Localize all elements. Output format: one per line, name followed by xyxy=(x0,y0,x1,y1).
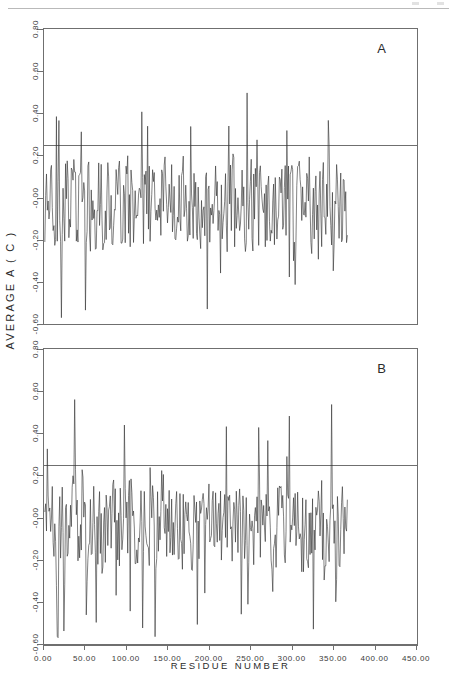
x-axis-tick xyxy=(333,645,334,650)
trace-polyline xyxy=(45,400,348,638)
x-axis-tick xyxy=(126,645,127,650)
y-axis-tick-label: 0.20 xyxy=(31,155,40,173)
x-axis-tick xyxy=(43,645,44,650)
y-axis-tick-label: -0.00 xyxy=(31,518,40,539)
y-axis-tick-label: 0.60 xyxy=(31,71,40,89)
plot-area-b xyxy=(44,349,417,644)
y-axis-tick-label: -0.20 xyxy=(31,560,40,581)
panel-label-a: A xyxy=(377,41,387,56)
panel-label-b: B xyxy=(377,361,387,376)
figure-page: AVERAGE A ( C ) A 0.800.600.400.20-0.00-… xyxy=(0,0,457,682)
x-axis-tick xyxy=(84,645,85,650)
x-axis-title: RESIDUE NUMBER xyxy=(43,660,418,671)
y-axis-tick-label: 0.40 xyxy=(31,113,40,131)
x-axis-tick xyxy=(209,645,210,650)
x-axis-tick xyxy=(250,645,251,650)
y-axis-tick-label: -0.40 xyxy=(31,282,40,303)
x-axis-tick xyxy=(416,645,417,650)
x-axis: 0.0050.00100.00150.00200.00250.00300.003… xyxy=(43,645,418,646)
trace-polyline xyxy=(45,93,348,318)
y-axis-tick-label: 0.20 xyxy=(31,475,40,493)
y-axis-tick-label: -0.00 xyxy=(31,198,40,219)
x-axis-tick xyxy=(292,645,293,650)
y-axis-tick-label: -0.40 xyxy=(31,602,40,623)
data-trace-a xyxy=(44,29,417,324)
y-axis-tick-label: 0.40 xyxy=(31,433,40,451)
y-axis-tick-label: 0.80 xyxy=(31,349,40,367)
plot-panel-a: A 0.800.600.400.20-0.00-0.20-0.40-0.60 xyxy=(43,28,418,325)
data-trace-b xyxy=(44,349,417,644)
scan-artifact-mark xyxy=(412,2,419,5)
y-axis-tick-label: 0.80 xyxy=(31,29,40,47)
y-axis-tick-label: -0.20 xyxy=(31,240,40,261)
y-axis-title: AVERAGE A ( C ) xyxy=(4,231,16,350)
x-axis-tick xyxy=(167,645,168,650)
plot-panel-b: B 0.800.600.400.20-0.00-0.20-0.40-0.60 xyxy=(43,348,418,645)
plot-area-a xyxy=(44,29,417,324)
page-top-rule xyxy=(8,8,449,9)
x-axis-tick xyxy=(375,645,376,650)
y-axis-tick-label: 0.60 xyxy=(31,391,40,409)
scan-artifact-mark xyxy=(437,2,444,5)
